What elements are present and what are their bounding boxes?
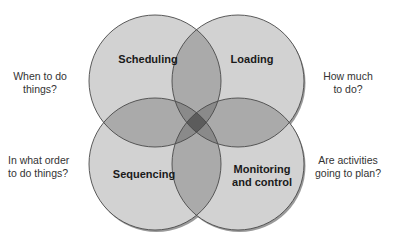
question-line: When to do: [10, 70, 70, 83]
label-sequencing: Sequencing: [104, 168, 184, 181]
question-line: Are activities: [308, 154, 388, 167]
label-monitoring-line1: Monitoring: [222, 163, 302, 176]
question-monitoring: Are activities going to plan?: [308, 154, 388, 180]
label-loading: Loading: [227, 53, 277, 66]
label-scheduling: Scheduling: [108, 53, 188, 66]
question-line: How much: [318, 70, 378, 83]
label-monitoring: Monitoring and control: [222, 163, 302, 189]
question-line: to do?: [318, 83, 378, 96]
question-sequencing: In what order to do things?: [8, 154, 82, 180]
question-line: to do things?: [8, 167, 82, 180]
question-scheduling: When to do things?: [10, 70, 70, 96]
question-line: In what order: [8, 154, 82, 167]
question-line: going to plan?: [308, 167, 388, 180]
question-loading: How much to do?: [318, 70, 378, 96]
question-line: things?: [10, 83, 70, 96]
label-monitoring-line2: and control: [222, 176, 302, 189]
venn-diagram: [0, 0, 397, 245]
